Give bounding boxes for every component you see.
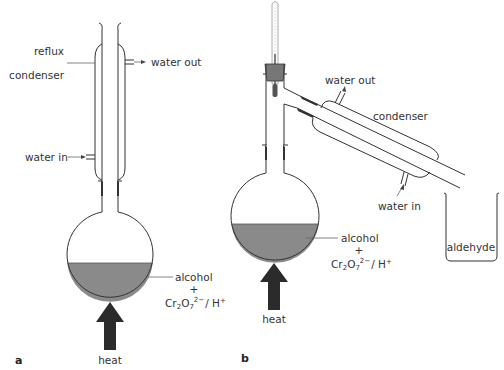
condenser-label-b: condenser	[373, 110, 429, 122]
mixture-label-plus: +	[190, 283, 199, 295]
water-out-label: water out	[151, 56, 201, 68]
panel-b-distillation: water out condenser water in aldehyde al…	[231, 2, 499, 366]
water-in-label-b: water in	[378, 200, 421, 212]
panel-a-reflux: reflux condenser water out water in alco…	[9, 23, 226, 367]
aldehyde-label: aldehyde	[447, 241, 495, 253]
panel-label-b: b	[241, 352, 249, 365]
condenser-label-line2: condenser	[9, 69, 65, 81]
mixture-label-oxidant-b: Cr2O72−/ H+	[331, 257, 392, 272]
mixture-label-oxidant: Cr2O72−/ H+	[165, 296, 226, 311]
round-bottom-flask-b	[231, 160, 319, 263]
condenser	[297, 91, 465, 188]
reflux-label-line1: reflux	[34, 45, 64, 57]
water-in-label: water in	[25, 151, 68, 163]
mixture-label-alcohol-b: alcohol	[341, 232, 379, 244]
heat-label: heat	[98, 354, 122, 366]
mixture-label-alcohol: alcohol	[175, 271, 213, 283]
mixture-label-plus-b: +	[355, 244, 364, 256]
apparatus-figure: reflux condenser water out water in alco…	[0, 0, 504, 370]
heat-arrow-b	[260, 263, 288, 310]
panel-label-a: a	[15, 354, 22, 367]
round-bottom-flask	[67, 182, 153, 302]
stopper	[263, 64, 287, 81]
thermometer	[272, 2, 278, 98]
heat-label-b: heat	[262, 313, 286, 325]
water-out-label-b: water out	[325, 74, 375, 86]
reflux-condenser	[86, 23, 134, 180]
heat-arrow	[96, 302, 124, 350]
